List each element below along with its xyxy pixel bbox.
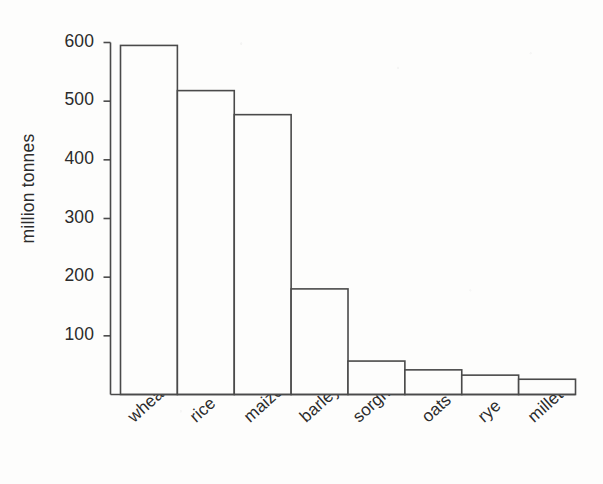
- bar-rye: [462, 375, 519, 394]
- bar-maize: [234, 115, 291, 395]
- chart-page: million tonnes 100 200 300 400 500 600 w…: [0, 0, 603, 484]
- bar-wheat: [121, 45, 178, 394]
- bar-millet: [519, 379, 576, 394]
- bar-barley: [291, 289, 348, 395]
- plot-area: [0, 0, 603, 484]
- bar-oats: [405, 370, 462, 395]
- bar-rice: [177, 91, 234, 395]
- bar-sorghum: [348, 361, 405, 394]
- bars-group: [121, 45, 576, 394]
